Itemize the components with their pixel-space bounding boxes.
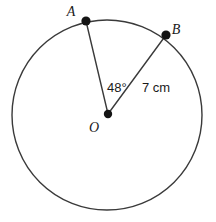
point-b-dot — [161, 30, 170, 39]
point-b-label: B — [172, 22, 181, 37]
radius-length-label: 7 cm — [142, 80, 170, 95]
center-point-o-dot — [104, 110, 112, 118]
central-angle-label: 48° — [107, 80, 127, 95]
point-a-label: A — [66, 4, 76, 19]
radius-oa-line — [86, 21, 108, 114]
point-a-dot — [81, 16, 90, 25]
circle-diagram-canvas: A B O 48° 7 cm — [0, 0, 216, 222]
geometry-figure: A B O 48° 7 cm — [0, 0, 216, 222]
radius-ob-line — [108, 35, 166, 114]
center-point-o-label: O — [89, 120, 99, 135]
